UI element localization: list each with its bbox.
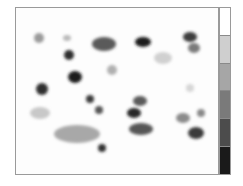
spot — [30, 107, 50, 119]
spot — [92, 37, 116, 51]
spot — [129, 123, 153, 135]
spot — [186, 84, 194, 92]
colorbar-band — [220, 90, 230, 118]
colorbar — [219, 7, 231, 175]
spot — [95, 106, 103, 114]
spot — [54, 125, 100, 143]
spot — [135, 37, 151, 47]
heatmap-plot-area — [15, 7, 219, 175]
spot — [86, 95, 94, 103]
spot — [63, 35, 71, 41]
colorbar-band — [220, 63, 230, 91]
spot — [133, 96, 147, 106]
spot — [68, 71, 82, 83]
spot — [127, 108, 141, 118]
spot — [176, 113, 190, 123]
spot-group — [30, 32, 205, 152]
spot — [154, 52, 172, 64]
spots-layer — [16, 8, 219, 175]
colorbar-band — [220, 8, 230, 35]
spot — [188, 43, 200, 53]
spot — [34, 33, 44, 43]
colorbar-band — [220, 146, 230, 174]
spot — [197, 109, 205, 117]
spot — [183, 32, 197, 42]
colorbar-band — [220, 35, 230, 63]
colorbar-band — [220, 118, 230, 146]
spot — [36, 83, 48, 95]
spot — [107, 65, 117, 75]
spot — [64, 50, 74, 60]
spot — [98, 144, 106, 152]
spot — [188, 127, 204, 139]
